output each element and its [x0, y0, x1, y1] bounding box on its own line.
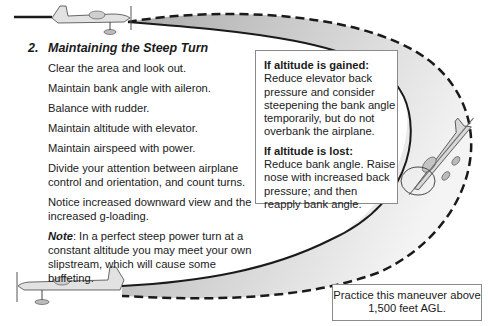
- step-item: Clear the area and look out.: [48, 61, 263, 75]
- altitude-lost-block: If altitude is lost: Reduce bank angle. …: [264, 145, 397, 211]
- step-item: Divide your attention between airplane c…: [48, 161, 263, 189]
- altitude-gained-block: If altitude is gained: Reduce elevator b…: [264, 59, 397, 139]
- altitude-gained-text: Reduce elevator back pressure and consid…: [264, 72, 395, 137]
- practice-altitude-note: Practice this maneuver above 1,500 feet …: [332, 284, 482, 321]
- note-text: : In a perfect steep power turn at a con…: [48, 230, 251, 284]
- step-item: Maintain bank angle with aileron.: [48, 81, 263, 95]
- altitude-lost-title: If altitude is lost:: [264, 145, 353, 157]
- section-heading: 2.Maintaining the Steep Turn: [28, 41, 208, 55]
- step-item: Notice increased downward view and the i…: [48, 195, 263, 223]
- section-number: 2.: [28, 41, 48, 55]
- note-label: Note: [48, 230, 73, 242]
- step-item: Balance with rudder.: [48, 101, 263, 115]
- step-item: Maintain airspeed with power.: [48, 141, 263, 155]
- altitude-gained-title: If altitude is gained:: [264, 59, 369, 71]
- section-title: Maintaining the Steep Turn: [48, 41, 208, 55]
- altitude-correction-box: If altitude is gained: Reduce elevator b…: [255, 50, 398, 204]
- step-item: Maintain altitude with elevator.: [48, 121, 263, 135]
- altitude-lost-text: Reduce bank angle. Raise nose with incre…: [264, 158, 395, 210]
- note-paragraph: Note: In a perfect steep power turn at a…: [48, 229, 263, 285]
- steps-list: Clear the area and look out. Maintain ba…: [48, 61, 263, 291]
- airplane-top-icon: [52, 6, 131, 35]
